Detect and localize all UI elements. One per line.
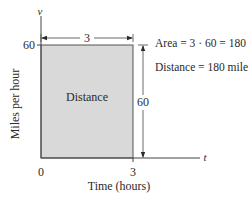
area-annotation: Area = 3 · 60 = 180 (155, 37, 246, 49)
x-tick-label-3: 3 (130, 165, 136, 179)
distance-diagram: 3 60 v t 60 0 3 Miles per hour Time (hou… (0, 0, 248, 201)
y-tick-label-60: 60 (23, 38, 35, 52)
x-axis-title: Time (hours) (88, 179, 151, 193)
v-axis-label: v (38, 5, 43, 17)
t-axis-label: t (203, 151, 207, 163)
region-label: Distance (66, 90, 108, 104)
distance-annotation: Distance = 180 miles (155, 61, 248, 73)
width-dimension-label: 3 (84, 31, 90, 45)
height-dimension-label: 60 (137, 95, 149, 109)
x-tick-label-0: 0 (38, 165, 44, 179)
y-axis-title: Miles per hour (8, 69, 22, 140)
